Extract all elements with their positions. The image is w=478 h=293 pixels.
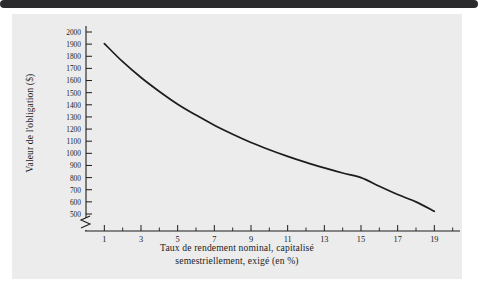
y-tick-labels-group: 5006007008009001000110012001300140015001… [66, 28, 81, 219]
chart-panel: 5006007008009001000110012001300140015001… [12, 14, 462, 279]
bond-value-curve [104, 44, 434, 212]
y-tick-label: 1200 [66, 125, 81, 134]
y-tick-label: 1400 [66, 101, 81, 110]
x-axis-title-line1: Taux de rendement nominal, capitalisé [12, 242, 462, 255]
axis-break-zigzag [81, 216, 90, 228]
y-axis-title: Valeur de l'obligation ($) [25, 43, 35, 203]
y-tick-label: 1700 [66, 64, 81, 73]
y-tick-label: 800 [70, 174, 81, 183]
y-tick-label: 700 [70, 186, 81, 195]
y-tick-label: 1600 [66, 76, 81, 85]
y-tick-label: 2000 [66, 28, 81, 37]
y-axis-break-symbol [81, 216, 90, 228]
y-tick-label: 1100 [66, 137, 81, 146]
y-tick-label: 900 [70, 161, 81, 170]
axes-group [85, 26, 460, 231]
tick-marks-group [86, 32, 453, 231]
top-rule-bar [0, 0, 478, 8]
figure-root: 5006007008009001000110012001300140015001… [0, 0, 478, 293]
x-axis-title: Taux de rendement nominal, capitalisé se… [12, 242, 462, 267]
y-tick-label: 1900 [66, 40, 81, 49]
data-series-group [104, 44, 434, 212]
chart-area: 5006007008009001000110012001300140015001… [12, 14, 462, 279]
y-tick-label: 1300 [66, 113, 81, 122]
y-tick-label: 1000 [66, 149, 81, 158]
y-tick-label: 500 [70, 210, 81, 219]
y-tick-label: 1500 [66, 89, 81, 98]
x-axis-title-line2: semestriellement, exigé (en %) [12, 255, 462, 268]
y-tick-label: 1800 [66, 52, 81, 61]
y-tick-label: 600 [70, 198, 81, 207]
bond-value-line-chart: 5006007008009001000110012001300140015001… [12, 14, 462, 279]
